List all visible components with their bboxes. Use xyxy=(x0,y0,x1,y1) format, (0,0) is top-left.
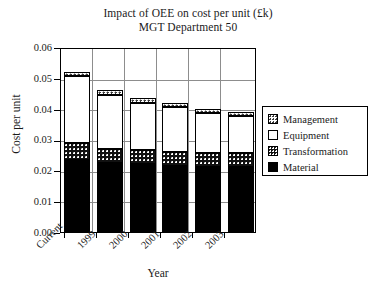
bar-segment-1999-material xyxy=(97,163,123,232)
chart-legend: Management Equipment Transformation Mate… xyxy=(262,106,368,176)
chart-subtitle: MGT Department 50 xyxy=(0,20,376,34)
bar-segment-2003-material xyxy=(228,167,254,232)
bar-segment-current-material xyxy=(64,160,90,232)
bar-segment-1999-management xyxy=(97,90,123,95)
legend-swatch-equipment-icon xyxy=(268,130,278,140)
legend-swatch-transformation-icon xyxy=(268,146,278,156)
legend-item-management: Management xyxy=(268,111,367,127)
legend-label-equipment: Equipment xyxy=(283,130,329,141)
bar-1999 xyxy=(97,82,123,232)
bar-segment-2000-management xyxy=(130,98,156,103)
bar-segment-2002-equipment xyxy=(195,113,221,153)
bar-segment-2003-equipment xyxy=(228,116,254,153)
x-axis-label: Year xyxy=(60,267,256,279)
bar-segment-2002-transformation xyxy=(195,153,221,167)
bar-segment-current-management xyxy=(64,72,90,77)
legend-item-material: Material xyxy=(268,159,367,175)
bar-segment-2000-transformation xyxy=(130,150,156,164)
legend-swatch-management-icon xyxy=(268,114,278,124)
x-tick-mark-0 xyxy=(64,233,65,238)
bar-segment-2002-management xyxy=(195,109,221,114)
legend-label-transformation: Transformation xyxy=(283,146,348,157)
bar-segment-2001-material xyxy=(162,166,188,232)
plot-area xyxy=(60,48,256,233)
bar-segment-1999-transformation xyxy=(97,149,123,163)
legend-item-transformation: Transformation xyxy=(268,143,367,159)
bar-segment-2000-equipment xyxy=(130,103,156,151)
bar-segment-2000-material xyxy=(130,164,156,232)
chart-title: Impact of OEE on cost per unit (£k) xyxy=(0,6,376,20)
y-tick-label-1: 0.01 xyxy=(6,197,52,207)
bar-segment-2002-material xyxy=(195,167,221,232)
legend-label-management: Management xyxy=(283,114,338,125)
bar-2001 xyxy=(162,96,188,232)
bar-segment-1999-equipment xyxy=(97,95,123,149)
bar-segment-2001-management xyxy=(162,103,188,108)
bar-segment-current-transformation xyxy=(64,143,90,160)
bar-2003 xyxy=(228,103,254,233)
y-tick-label-6: 0.06 xyxy=(6,43,52,53)
bar-2002 xyxy=(195,99,221,232)
chart-figure: Impact of OEE on cost per unit (£k) MGT … xyxy=(0,0,376,286)
bar-segment-current-equipment xyxy=(64,76,90,142)
bar-series-layer xyxy=(61,49,255,232)
legend-label-material: Material xyxy=(283,162,319,173)
y-axis-label: Cost per unit xyxy=(10,76,22,172)
bar-segment-2003-management xyxy=(228,112,254,117)
bar-2000 xyxy=(130,89,156,232)
bar-current xyxy=(64,72,90,232)
bar-segment-2001-equipment xyxy=(162,107,188,152)
legend-item-equipment: Equipment xyxy=(268,127,367,143)
legend-swatch-material-icon xyxy=(268,162,278,172)
bar-segment-2003-transformation xyxy=(228,153,254,167)
chart-title-block: Impact of OEE on cost per unit (£k) MGT … xyxy=(0,6,376,34)
bar-segment-2001-transformation xyxy=(162,152,188,166)
